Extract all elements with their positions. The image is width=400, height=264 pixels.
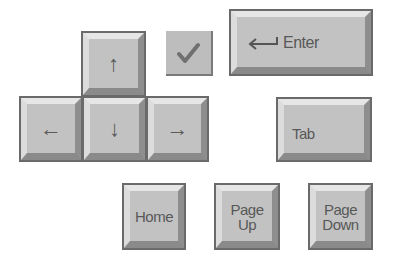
tab-label: Tab (292, 126, 315, 141)
home-label: Home (135, 209, 173, 224)
page-down-label-line1: Page (324, 202, 357, 217)
left-arrow-icon: ← (40, 116, 62, 142)
page-up-label-line1: Page (230, 202, 263, 217)
up-arrow-key[interactable]: ↑ (81, 31, 146, 97)
enter-arrow-icon (247, 35, 279, 51)
page-down-key[interactable]: Page Down (308, 183, 373, 250)
up-arrow-icon: ↑ (108, 51, 119, 77)
checkmark-button[interactable] (166, 31, 213, 76)
checkmark-icon (177, 42, 201, 64)
page-up-label-line2: Up (238, 217, 256, 232)
left-arrow-key[interactable]: ← (19, 96, 83, 162)
right-arrow-icon: → (167, 116, 189, 142)
page-down-label-line2: Down (322, 217, 358, 232)
tab-key[interactable]: Tab (276, 97, 372, 162)
right-arrow-key[interactable]: → (146, 96, 209, 162)
page-up-key[interactable]: Page Up (214, 183, 280, 250)
enter-key[interactable]: Enter (229, 9, 373, 76)
home-key[interactable]: Home (122, 183, 186, 250)
down-arrow-icon: ↓ (109, 116, 120, 142)
down-arrow-key[interactable]: ↓ (82, 96, 147, 162)
enter-label: Enter (283, 35, 319, 50)
